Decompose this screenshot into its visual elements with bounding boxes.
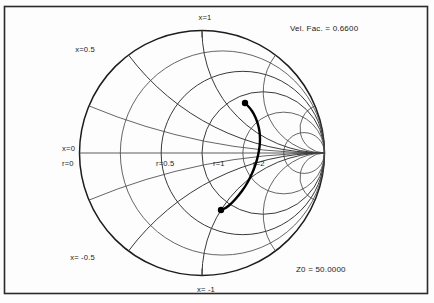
label-r-one: r=1 (213, 159, 225, 168)
label-x-zero: x=0 (62, 144, 75, 153)
label-x-neg-half: x= -0.5 (70, 253, 95, 262)
label-x-neg-one: x= -1 (197, 285, 215, 294)
velocity-factor-label: Vel. Fac. = 0.6600 (290, 24, 359, 33)
label-r-two: r=2 (253, 159, 265, 168)
label-r-half: r=0.5 (156, 159, 175, 168)
reference-impedance-label: Z0 = 50.0000 (296, 265, 346, 274)
chart-label-layer: Vel. Fac. = 0.6600 Z0 = 50.0000 x=0 r=0 … (0, 0, 434, 303)
smith-chart-figure: Vel. Fac. = 0.6600 Z0 = 50.0000 x=0 r=0 … (0, 0, 434, 303)
label-x-one: x=1 (198, 13, 211, 22)
label-x-half: x=0.5 (75, 45, 95, 54)
label-r-zero: r=0 (62, 159, 74, 168)
